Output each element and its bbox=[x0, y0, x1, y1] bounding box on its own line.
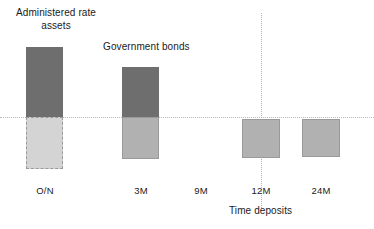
administered-rate-assets-label-line2: assets bbox=[6, 20, 106, 33]
bar-24m-segment-time-deposits bbox=[302, 119, 340, 157]
administered-rate-assets-label: Administered rate assets bbox=[6, 7, 106, 32]
administered-rate-assets-label-line1: Administered rate bbox=[6, 7, 106, 20]
x-tick-label-12m: 12M bbox=[240, 185, 282, 196]
bar-on[interactable] bbox=[26, 47, 63, 169]
bar-3m-segment-government-bonds bbox=[122, 67, 159, 117]
bar-12m-segment-time-deposits bbox=[242, 119, 280, 158]
bar-12m[interactable] bbox=[242, 119, 280, 158]
bar-3m[interactable] bbox=[122, 67, 159, 159]
x-tick-label-3m: 3M bbox=[120, 185, 162, 196]
x-tick-label-24m: 24M bbox=[300, 185, 342, 196]
bar-24m[interactable] bbox=[302, 119, 340, 157]
vertical-divider-gridline bbox=[261, 13, 262, 208]
government-bonds-label: Government bonds bbox=[103, 41, 190, 54]
bar-on-segment-liabilities bbox=[26, 117, 63, 169]
x-tick-label-9m: 9M bbox=[180, 185, 222, 196]
x-tick-label-on: O/N bbox=[24, 185, 66, 196]
bar-chart: O/N 3M 9M 12M 24M Administered rate asse… bbox=[0, 0, 374, 229]
time-deposits-label: Time deposits bbox=[229, 205, 292, 218]
bar-on-segment-administered-rate-assets bbox=[26, 47, 63, 117]
bar-3m-segment-time-deposits bbox=[122, 117, 159, 159]
